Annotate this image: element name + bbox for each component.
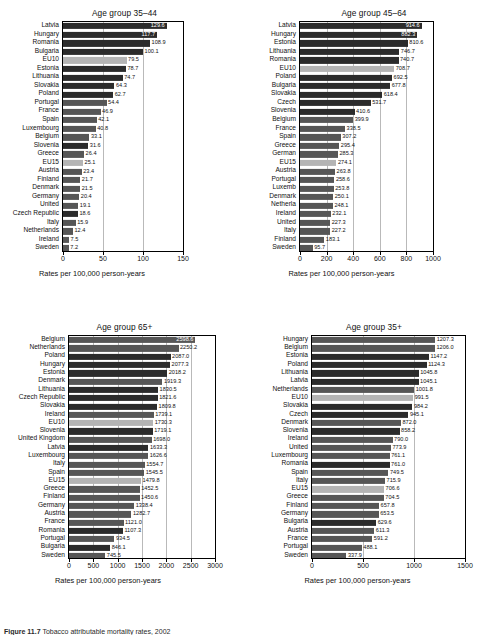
bar[interactable] — [312, 403, 412, 409]
bar-row[interactable]: 1730.3 — [69, 419, 215, 427]
bar-row[interactable]: 64.3 — [63, 82, 183, 91]
bar[interactable] — [69, 495, 140, 501]
bar-row[interactable]: 1633.3 — [69, 444, 215, 452]
bar-row[interactable]: 62.7 — [63, 90, 183, 99]
bar[interactable] — [300, 23, 422, 29]
bar-row[interactable]: 653.5 — [312, 510, 465, 518]
bar-row[interactable]: 1719.1 — [69, 427, 215, 435]
bar[interactable] — [312, 511, 379, 517]
bar[interactable] — [300, 143, 339, 149]
bar[interactable] — [63, 49, 143, 55]
bar-row[interactable]: 882.3 — [300, 31, 433, 40]
bar[interactable] — [63, 151, 84, 157]
bar-row[interactable]: 410.6 — [300, 107, 433, 116]
bar[interactable] — [63, 83, 114, 89]
bar[interactable] — [69, 462, 145, 468]
bar[interactable] — [300, 32, 417, 38]
bar-row[interactable]: 285.3 — [300, 150, 433, 159]
bar[interactable] — [312, 520, 376, 526]
bar-row[interactable]: 991.5 — [312, 394, 465, 402]
bar[interactable] — [69, 511, 131, 517]
bar[interactable] — [69, 453, 148, 459]
bar-row[interactable]: 7.5 — [63, 236, 183, 245]
bar[interactable] — [300, 194, 333, 200]
bar-row[interactable]: 618.4 — [300, 90, 433, 99]
bar-row[interactable]: 1809.8 — [69, 402, 215, 410]
bar[interactable] — [300, 245, 313, 251]
bar[interactable] — [63, 57, 127, 63]
bar-row[interactable]: 745.5 — [69, 552, 215, 559]
bar-row[interactable]: 708.7 — [300, 65, 433, 74]
bar-row[interactable]: 295.4 — [300, 142, 433, 151]
bar-row[interactable]: 1147.2 — [312, 353, 465, 361]
bar[interactable] — [300, 134, 341, 140]
bar[interactable] — [300, 168, 335, 174]
bar-row[interactable]: 274.1 — [300, 159, 433, 168]
bar-row[interactable]: 15.9 — [63, 219, 183, 228]
bar[interactable] — [312, 486, 384, 492]
bar-row[interactable]: 746.7 — [300, 48, 433, 57]
bar-row[interactable]: 914.6 — [300, 22, 433, 31]
bar[interactable] — [63, 211, 78, 217]
bar-row[interactable]: 1479.8 — [69, 477, 215, 485]
bar-row[interactable]: 677.8 — [300, 82, 433, 91]
bar-row[interactable]: 337.9 — [312, 552, 465, 559]
bar[interactable] — [312, 428, 400, 434]
bar[interactable] — [300, 237, 324, 243]
bar-row[interactable]: 1045.1 — [312, 377, 465, 385]
bar-row[interactable]: 25.1 — [63, 159, 183, 168]
bar[interactable] — [300, 228, 330, 234]
bar[interactable] — [300, 57, 399, 63]
bar[interactable] — [63, 109, 101, 115]
bar-row[interactable]: 858.2 — [312, 427, 465, 435]
bar-row[interactable]: 945.1 — [312, 411, 465, 419]
bar-row[interactable]: 18.6 — [63, 210, 183, 219]
bar-row[interactable]: 232.1 — [300, 210, 433, 219]
bar-row[interactable]: 1545.5 — [69, 469, 215, 477]
bar[interactable] — [300, 66, 394, 72]
bar[interactable] — [69, 503, 134, 509]
bar[interactable] — [69, 437, 152, 443]
bar[interactable] — [63, 117, 97, 123]
bar[interactable] — [63, 203, 78, 209]
bar[interactable] — [312, 412, 408, 418]
bar-row[interactable]: 846.1 — [69, 543, 215, 551]
bar[interactable] — [300, 160, 336, 166]
bar-row[interactable]: 1124.3 — [312, 361, 465, 369]
bar[interactable] — [300, 109, 355, 115]
bar[interactable] — [312, 503, 379, 509]
bar-row[interactable]: 2087.0 — [69, 353, 215, 361]
bar-row[interactable]: 7.2 — [63, 244, 183, 252]
bar[interactable] — [63, 92, 113, 98]
bar[interactable] — [312, 387, 414, 393]
bar[interactable] — [69, 428, 153, 434]
bar-row[interactable]: 715.9 — [312, 477, 465, 485]
bar[interactable] — [63, 177, 80, 183]
bar[interactable] — [300, 211, 331, 217]
bar[interactable] — [69, 345, 179, 351]
bar[interactable] — [69, 528, 123, 534]
bar[interactable] — [63, 66, 126, 72]
bar-row[interactable]: 26.4 — [63, 150, 183, 159]
bar[interactable] — [300, 74, 392, 80]
bar-row[interactable]: 399.9 — [300, 116, 433, 125]
bar[interactable] — [63, 186, 80, 192]
bar-row[interactable]: 2018.2 — [69, 369, 215, 377]
bar-row[interactable]: 100.1 — [63, 48, 183, 57]
bar-row[interactable]: 263.8 — [300, 167, 433, 176]
bar[interactable] — [69, 379, 162, 385]
bar-row[interactable]: 706.6 — [312, 485, 465, 493]
bar-row[interactable]: 129.6 — [63, 22, 183, 31]
bar[interactable] — [300, 177, 334, 183]
bar[interactable] — [69, 387, 158, 393]
bar-row[interactable]: 40.8 — [63, 125, 183, 134]
bar[interactable] — [69, 403, 157, 409]
bar[interactable] — [300, 100, 371, 106]
bar[interactable] — [69, 420, 153, 426]
bar[interactable] — [312, 553, 346, 559]
bar-row[interactable]: 934.5 — [69, 535, 215, 543]
bar[interactable] — [300, 49, 399, 55]
bar-row[interactable]: 183.1 — [300, 236, 433, 245]
bar[interactable] — [63, 74, 123, 80]
bar-row[interactable]: 591.2 — [312, 535, 465, 543]
